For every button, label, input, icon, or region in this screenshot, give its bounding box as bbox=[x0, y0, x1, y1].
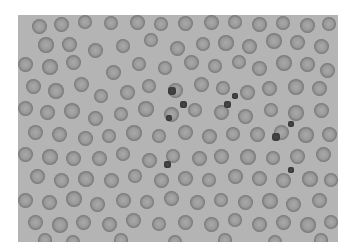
red-blood-cell bbox=[298, 127, 314, 143]
red-blood-cell bbox=[178, 125, 193, 140]
red-blood-cell bbox=[322, 127, 337, 142]
red-blood-cell bbox=[300, 57, 315, 72]
red-blood-cell bbox=[126, 125, 142, 141]
red-blood-cell bbox=[114, 107, 128, 121]
red-blood-cell bbox=[152, 217, 166, 231]
red-blood-cell bbox=[42, 195, 57, 210]
red-blood-cell bbox=[88, 111, 103, 126]
red-blood-cell bbox=[218, 233, 232, 242]
red-blood-cell bbox=[76, 215, 91, 230]
red-blood-cell bbox=[116, 39, 130, 53]
red-blood-cell bbox=[52, 217, 68, 233]
red-blood-cell bbox=[120, 85, 135, 100]
red-blood-cell bbox=[268, 235, 282, 242]
red-blood-cell bbox=[62, 37, 77, 52]
red-blood-cell bbox=[242, 39, 257, 54]
red-blood-cell bbox=[42, 149, 58, 165]
red-blood-cell bbox=[240, 149, 256, 165]
dense-cell-fragment bbox=[272, 133, 280, 141]
red-blood-cell bbox=[64, 103, 80, 119]
red-blood-cell bbox=[18, 147, 33, 162]
red-blood-cell bbox=[312, 193, 327, 208]
red-blood-cell bbox=[42, 59, 58, 75]
red-blood-cell bbox=[54, 173, 69, 188]
red-blood-cell bbox=[204, 217, 219, 232]
red-blood-cell bbox=[192, 151, 207, 166]
red-blood-cell bbox=[188, 103, 202, 117]
red-blood-cell bbox=[178, 171, 193, 186]
red-blood-cell bbox=[324, 173, 338, 187]
red-blood-cell bbox=[28, 215, 43, 230]
red-blood-cell bbox=[228, 15, 242, 29]
red-blood-cell bbox=[90, 197, 105, 212]
red-blood-cell bbox=[78, 15, 92, 29]
red-blood-cell bbox=[266, 151, 280, 165]
red-blood-cell bbox=[320, 63, 335, 78]
dense-cell-fragment bbox=[166, 115, 172, 121]
red-blood-cell bbox=[74, 77, 89, 92]
dense-cell-fragment bbox=[164, 161, 171, 168]
red-blood-cell bbox=[38, 37, 54, 53]
red-blood-cell bbox=[106, 65, 121, 80]
red-blood-cell bbox=[116, 193, 131, 208]
red-blood-cell bbox=[102, 217, 117, 232]
red-blood-cell bbox=[322, 17, 336, 31]
red-blood-cell bbox=[214, 149, 229, 164]
red-blood-cell bbox=[144, 33, 158, 47]
red-blood-cell bbox=[214, 193, 228, 207]
red-blood-cell bbox=[52, 127, 67, 142]
red-blood-cell bbox=[276, 16, 290, 30]
red-blood-cell bbox=[66, 235, 80, 242]
red-blood-cell bbox=[300, 217, 316, 233]
red-blood-cell bbox=[232, 55, 246, 69]
red-blood-cell bbox=[196, 37, 210, 51]
red-blood-cell bbox=[324, 215, 338, 229]
red-blood-cell bbox=[158, 61, 172, 75]
dense-cell-fragment bbox=[224, 101, 231, 108]
red-blood-cell bbox=[92, 151, 107, 166]
blood-smear-micrograph bbox=[18, 15, 338, 242]
red-blood-cell bbox=[66, 151, 81, 166]
red-blood-cell bbox=[276, 215, 291, 230]
dense-cell-fragment bbox=[180, 101, 187, 108]
red-blood-cell bbox=[170, 41, 185, 56]
red-blood-cell bbox=[314, 103, 329, 118]
red-blood-cell bbox=[262, 81, 277, 96]
red-blood-cell bbox=[252, 17, 267, 32]
red-blood-cell bbox=[48, 83, 64, 99]
red-blood-cell bbox=[302, 171, 318, 187]
red-blood-cell bbox=[142, 153, 157, 168]
red-blood-cell bbox=[178, 16, 193, 31]
red-blood-cell bbox=[28, 125, 43, 140]
red-blood-cell bbox=[78, 131, 93, 146]
red-blood-cell bbox=[262, 193, 278, 209]
red-blood-cell bbox=[66, 191, 82, 207]
red-blood-cell bbox=[102, 129, 116, 143]
red-blood-cell bbox=[190, 195, 205, 210]
red-blood-cell bbox=[18, 57, 33, 72]
red-blood-cell bbox=[240, 85, 255, 100]
red-blood-cell bbox=[288, 105, 304, 121]
red-blood-cell bbox=[114, 233, 128, 242]
red-blood-cell bbox=[250, 127, 265, 142]
red-blood-cell bbox=[288, 79, 304, 95]
red-blood-cell bbox=[286, 197, 301, 212]
red-blood-cell bbox=[18, 193, 33, 208]
red-blood-cell bbox=[154, 17, 168, 31]
red-blood-cell bbox=[314, 39, 329, 54]
red-blood-cell bbox=[300, 18, 315, 33]
red-blood-cell bbox=[104, 16, 118, 30]
red-blood-cell bbox=[128, 169, 142, 183]
red-blood-cell bbox=[252, 171, 267, 186]
red-blood-cell bbox=[154, 173, 169, 188]
red-blood-cell bbox=[78, 171, 94, 187]
red-blood-cell bbox=[38, 233, 52, 242]
red-blood-cell bbox=[30, 169, 45, 184]
red-blood-cell bbox=[168, 235, 182, 242]
red-blood-cell bbox=[94, 89, 108, 103]
red-blood-cell bbox=[290, 149, 305, 164]
red-blood-cell bbox=[26, 79, 41, 94]
red-blood-cell bbox=[138, 101, 154, 117]
red-blood-cell bbox=[208, 59, 222, 73]
red-blood-cell bbox=[316, 147, 331, 162]
